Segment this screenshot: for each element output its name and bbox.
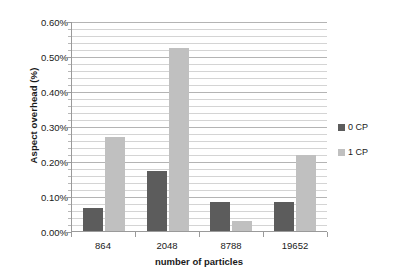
bar[interactable] [296,155,316,231]
bar-group [136,22,200,231]
legend-item[interactable]: 0 CP [338,122,368,132]
bar-chart: Aspect overhead (%) 0.00%0.10%0.20%0.30%… [0,0,395,280]
plot-area [71,22,327,232]
legend-swatch-icon [338,149,345,156]
x-axis-tick [327,232,328,237]
bar[interactable] [83,208,103,231]
bar[interactable] [274,202,294,231]
x-axis-tick [135,232,136,237]
legend-label: 0 CP [348,122,368,132]
bar-group [263,22,327,231]
bar-groups [72,22,327,231]
bar-group [72,22,136,231]
x-axis-tick-label: 2048 [135,240,199,251]
bar[interactable] [147,171,167,231]
x-axis-tick-label: 8788 [199,240,263,251]
x-axis-tick [71,232,72,237]
x-axis-tick [199,232,200,237]
x-axis-ticks [71,232,327,238]
bar[interactable] [232,221,252,231]
bar[interactable] [105,137,125,231]
bar[interactable] [169,48,189,231]
x-axis-tick [263,232,264,237]
y-axis-title: Aspect overhead (%) [28,21,39,211]
bar-group [200,22,264,231]
legend-label: 1 CP [348,147,368,157]
x-axis-tick-label: 864 [71,240,135,251]
chart-legend: 0 CP1 CP [338,122,368,172]
x-axis-tick-label: 19652 [263,240,327,251]
x-axis-title: number of particles [71,256,327,267]
y-axis-tick-label: 0.00% [8,227,68,238]
legend-item[interactable]: 1 CP [338,147,368,157]
legend-swatch-icon [338,124,345,131]
bar[interactable] [210,202,230,231]
x-axis-tick-labels: 8642048878819652 [71,240,327,251]
